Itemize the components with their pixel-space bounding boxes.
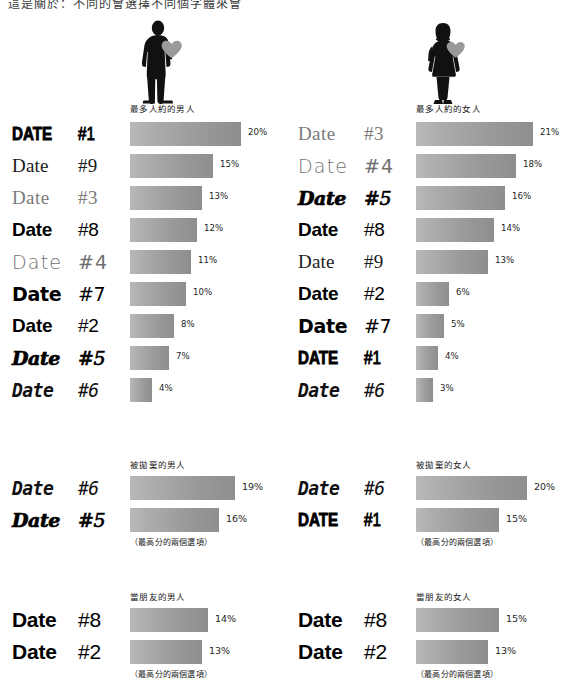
bar-row: Date #2 13% — [286, 636, 572, 668]
row-label-word: Date — [12, 636, 57, 668]
section-friendzone-women: 當朋友的女人 Date #8 15% Date #2 13% （最高分的兩個選項… — [286, 0, 572, 696]
row-label: Date #2 — [286, 636, 416, 668]
bar-container: 15% — [416, 604, 572, 636]
bar-row: Date #8 14% — [0, 604, 286, 636]
section-title-friendzone-men: 當朋友的男人 — [130, 590, 186, 602]
bar-value-label: 13% — [209, 645, 230, 656]
bar-row: Date #2 13% — [0, 636, 286, 668]
bar-value-label: 14% — [215, 613, 236, 624]
row-label-number: #2 — [364, 636, 387, 668]
row-label-number: #2 — [78, 636, 101, 668]
row-label: Date #8 — [0, 604, 130, 636]
bar-fill — [130, 608, 208, 632]
section-footnote-friendzone-women: （最高分的兩個選項） — [416, 668, 498, 679]
bar-fill — [416, 640, 488, 664]
infographic-board: 最多人約的男人 DATE #1 20% Date #9 15% Date #3 … — [0, 0, 572, 696]
bar-row: Date #8 15% — [286, 604, 572, 636]
row-label-word: Date — [298, 636, 343, 668]
bar-container: 13% — [416, 636, 572, 668]
bar-value-label: 15% — [506, 613, 527, 624]
bar-value-label: 13% — [495, 645, 516, 656]
bar-fill — [416, 608, 499, 632]
section-footnote-friendzone-men: （最高分的兩個選項） — [130, 668, 212, 679]
bar-fill — [130, 640, 202, 664]
row-label-word: Date — [12, 604, 56, 636]
row-label-word: Date — [298, 604, 342, 636]
row-label-number: #8 — [364, 604, 387, 636]
section-friendzone-men: 當朋友的男人 Date #8 14% Date #2 13% （最高分的兩個選項… — [0, 0, 286, 696]
row-label: Date #2 — [0, 636, 130, 668]
section-title-friendzone-women: 當朋友的女人 — [416, 590, 472, 602]
bar-container: 13% — [130, 636, 286, 668]
bar-container: 14% — [130, 604, 286, 636]
row-label-number: #8 — [78, 604, 101, 636]
row-label: Date #8 — [286, 604, 416, 636]
